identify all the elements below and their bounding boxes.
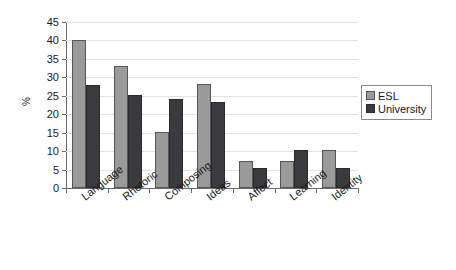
y-axis-title: % (21, 90, 32, 114)
legend-item-university: University (366, 102, 426, 115)
x-axis-tick (191, 188, 192, 193)
y-axis-tick-label: 20 (47, 109, 59, 120)
y-axis-tick-label: 45 (47, 17, 59, 28)
y-axis-tick-label: 10 (47, 146, 59, 157)
legend-label-esl: ESL (378, 90, 399, 102)
y-axis-tick (62, 77, 66, 78)
y-axis-tick-label: 40 (47, 35, 59, 46)
bar-ideas-university (211, 102, 225, 188)
y-axis-tick (62, 170, 66, 171)
gridline (66, 59, 358, 60)
gridline (66, 77, 358, 78)
y-axis-tick (62, 133, 66, 134)
y-axis-tick (62, 22, 66, 23)
plot-area: 051015202530354045 (66, 22, 358, 188)
x-axis-tick (108, 188, 109, 193)
y-axis-tick (62, 114, 66, 115)
legend-label-university: University (378, 103, 426, 115)
y-axis-tick (62, 96, 66, 97)
y-axis-tick (62, 59, 66, 60)
legend-swatch-esl-icon (366, 91, 375, 100)
gridline (66, 22, 358, 23)
bar-learning-esl (280, 161, 294, 188)
x-axis-tick (358, 188, 359, 193)
legend-swatch-university-icon (366, 104, 375, 113)
x-axis-tick (66, 188, 67, 193)
x-axis-tick (316, 188, 317, 193)
bar-composing-university (169, 99, 183, 188)
bar-language-university (86, 85, 100, 188)
y-axis-tick-label: 0 (53, 183, 59, 194)
x-axis-tick (275, 188, 276, 193)
bar-language-esl (72, 40, 86, 188)
chart-legend: ESL University (361, 85, 432, 120)
gridline (66, 40, 358, 41)
bar-rhetoric-university (128, 95, 142, 188)
y-axis-tick (62, 151, 66, 152)
y-axis-tick-label: 5 (53, 164, 59, 175)
bar-affect-esl (239, 161, 253, 188)
bar-chart: % 051015202530354045 LanguageRhetoricCom… (0, 0, 456, 270)
legend-item-esl: ESL (366, 89, 426, 102)
bar-composing-esl (155, 132, 169, 188)
y-axis-tick-label: 35 (47, 53, 59, 64)
x-axis-tick (149, 188, 150, 193)
y-axis-tick (62, 40, 66, 41)
x-axis-tick (233, 188, 234, 193)
y-axis-tick-label: 15 (47, 127, 59, 138)
y-axis-tick-label: 25 (47, 90, 59, 101)
y-axis-tick-label: 30 (47, 72, 59, 83)
gridline (66, 96, 358, 97)
bar-identity-esl (322, 150, 336, 188)
